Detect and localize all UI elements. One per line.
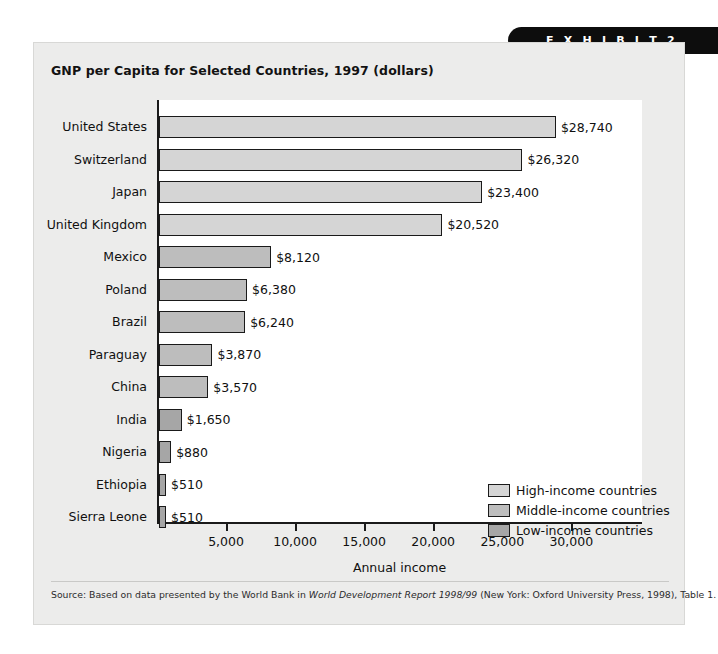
bar-row: $6,240 [159, 311, 294, 333]
bar-value-label: $510 [171, 510, 203, 525]
bar-china [159, 376, 208, 398]
category-label-japan: Japan [34, 181, 147, 203]
x-tick-label: 5,000 [208, 534, 244, 549]
x-tick-label: 10,000 [273, 534, 317, 549]
x-tick [433, 524, 435, 531]
bar-value-label: $510 [171, 477, 203, 492]
bar-japan [159, 181, 482, 203]
bar-value-label: $23,400 [487, 185, 539, 200]
x-axis-title: Annual income [157, 560, 642, 575]
exhibit-panel: GNP per Capita for Selected Countries, 1… [33, 42, 685, 625]
category-label-united-kingdom: United Kingdom [34, 214, 147, 236]
category-label-india: India [34, 409, 147, 431]
legend-label: Middle-income countries [516, 503, 670, 518]
bar-mexico [159, 246, 271, 268]
category-label-switzerland: Switzerland [34, 149, 147, 171]
category-label-mexico: Mexico [34, 246, 147, 268]
x-tick [364, 524, 366, 531]
legend-item-middle: Middle-income countries [488, 500, 670, 520]
bar-value-label: $6,240 [250, 315, 294, 330]
bar-row: $20,520 [159, 214, 499, 236]
bar-value-label: $26,320 [527, 152, 579, 167]
category-label-china: China [34, 376, 147, 398]
source-note: Source: Based on data presented by the W… [51, 589, 673, 600]
plot-area: $28,740$26,320$23,400$20,520$8,120$6,380… [157, 100, 642, 524]
category-label-united-states: United States [34, 116, 147, 138]
bar-value-label: $20,520 [447, 217, 499, 232]
bar-row: $880 [159, 441, 208, 463]
legend-swatch-low [488, 524, 510, 537]
category-label-ethiopia: Ethiopia [34, 474, 147, 496]
bar-value-label: $3,570 [213, 380, 257, 395]
bar-united-states [159, 116, 556, 138]
x-tick-label: 20,000 [411, 534, 455, 549]
bar-row: $6,380 [159, 279, 296, 301]
bar-nigeria [159, 441, 171, 463]
bar-row: $23,400 [159, 181, 539, 203]
bar-united-kingdom [159, 214, 442, 236]
bar-value-label: $1,650 [187, 412, 231, 427]
category-label-poland: Poland [34, 279, 147, 301]
x-tick-label: 15,000 [342, 534, 386, 549]
bar-paraguay [159, 344, 212, 366]
category-label-brazil: Brazil [34, 311, 147, 333]
bar-brazil [159, 311, 245, 333]
category-axis: United StatesSwitzerlandJapanUnited King… [34, 100, 157, 524]
source-divider [51, 581, 669, 582]
bar-value-label: $6,380 [252, 282, 296, 297]
bar-poland [159, 279, 247, 301]
legend-label: Low-income countries [516, 523, 653, 538]
bar-value-label: $880 [176, 445, 208, 460]
source-prefix: Source: Based on data presented by the W… [51, 589, 309, 600]
legend: High-income countriesMiddle-income count… [488, 480, 670, 540]
bar-row: $3,570 [159, 376, 257, 398]
source-suffix: (New York: Oxford University Press, 1998… [477, 589, 716, 600]
bar-value-label: $3,870 [217, 347, 261, 362]
bar-row: $28,740 [159, 116, 613, 138]
x-tick [295, 524, 297, 531]
legend-item-high: High-income countries [488, 480, 670, 500]
bar-row: $3,870 [159, 344, 261, 366]
legend-label: High-income countries [516, 483, 657, 498]
legend-item-low: Low-income countries [488, 520, 670, 540]
category-label-sierra-leone: Sierra Leone [34, 506, 147, 528]
bar-row: $1,650 [159, 409, 231, 431]
legend-swatch-middle [488, 504, 510, 517]
bar-value-label: $8,120 [276, 250, 320, 265]
bar-row: $8,120 [159, 246, 320, 268]
source-title: World Development Report 1998/99 [309, 589, 478, 600]
bar-switzerland [159, 149, 522, 171]
bar-india [159, 409, 182, 431]
x-tick [226, 524, 228, 531]
bar-row: $26,320 [159, 149, 579, 171]
bar-row: $510 [159, 474, 203, 496]
bar-ethiopia [159, 474, 166, 496]
bar-value-label: $28,740 [561, 120, 613, 135]
legend-swatch-high [488, 484, 510, 497]
category-label-nigeria: Nigeria [34, 441, 147, 463]
category-label-paraguay: Paraguay [34, 344, 147, 366]
chart-title: GNP per Capita for Selected Countries, 1… [51, 63, 434, 78]
